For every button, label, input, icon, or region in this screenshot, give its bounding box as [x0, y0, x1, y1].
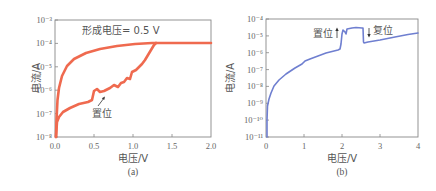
chart-a-set-label: 置位: [92, 107, 112, 119]
chart-b-ytick-label: 10⁻⁴: [247, 14, 263, 24]
chart-b-ytick-label: 10⁻¹¹: [245, 132, 264, 142]
chart-a-ytick-label: 10⁻⁴: [36, 38, 52, 48]
chart-a-xtick-label: 1.5: [167, 141, 178, 151]
chart-b-ytick-label: 10⁻⁶: [247, 48, 263, 58]
chart-b-caption: (b): [336, 167, 347, 178]
chart-b-ytick-label: 10⁻⁸: [247, 81, 263, 91]
chart-b-xtick-label: 2: [340, 141, 344, 151]
chart-b-set-label: 置位: [313, 27, 333, 39]
chart-a-ylabel: 电流/A: [30, 63, 42, 93]
chart-a-xlabel: 电压/V: [118, 152, 148, 164]
chart-a: 10⁻³ 10⁻⁴ 10⁻⁵ 10⁻⁶ 10⁻⁷ 10⁻⁸ 0.0 0.5 1.…: [30, 15, 216, 178]
chart-a-xtick-label: 0.0: [50, 141, 61, 151]
chart-b: 10⁻⁴ 10⁻⁵ 10⁻⁶ 10⁻⁷ 10⁻⁸ 10⁻⁹ 10⁻¹⁰ 10⁻¹…: [224, 14, 421, 178]
chart-b-ytick-label: 10⁻⁵: [247, 31, 263, 41]
chart-a-xtick-label: 0.5: [89, 141, 100, 151]
figure: 10⁻³ 10⁻⁴ 10⁻⁵ 10⁻⁶ 10⁻⁷ 10⁻⁸ 0.0 0.5 1.…: [0, 0, 436, 191]
chart-b-xtick-label: 1: [302, 141, 306, 151]
chart-b-ytick-label: 10⁻⁹: [247, 98, 263, 108]
chart-b-xtick-label: 0: [264, 141, 268, 151]
chart-a-caption: (a): [128, 167, 139, 178]
chart-b-ytick-label: 10⁻⁷: [247, 65, 263, 75]
chart-b-xtick-label: 3: [378, 141, 382, 151]
chart-a-ytick-label: 10⁻⁷: [36, 109, 52, 119]
chart-b-xlabel: 电压/V: [327, 152, 357, 164]
chart-a-forming-voltage-note: 形成电压= 0.5 V: [82, 24, 160, 36]
chart-b-xtick-label: 4: [416, 141, 421, 151]
chart-a-ytick-label: 10⁻³: [36, 15, 52, 25]
chart-b-ylabel: 电流/A: [224, 63, 236, 93]
chart-a-arrowhead-icon: [102, 97, 105, 101]
chart-b-ytick-label: 10⁻¹⁰: [244, 115, 264, 125]
chart-b-arrow-down-icon: [367, 34, 370, 38]
chart-b-reset-label: 复位: [373, 24, 393, 36]
chart-a-xtick-label: 1.0: [128, 141, 139, 151]
chart-a-lower-curve: [56, 43, 156, 137]
chart-b-arrow-up-icon: [335, 28, 338, 32]
chart-b-iv-curve: [267, 28, 418, 138]
chart-a-xtick-label: 2.0: [206, 141, 217, 151]
chart-a-upper-curve: [56, 43, 211, 137]
chart-a-frame: [55, 20, 211, 137]
